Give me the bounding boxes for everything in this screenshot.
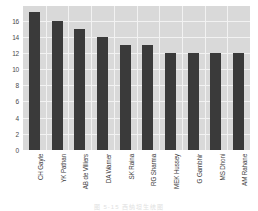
figure-caption: 图 5-15 西纳坦生统图 [0,202,258,211]
x-tick-label: RG Sharma [150,154,157,186]
y-tick-label: 4 [16,114,19,121]
bar [142,45,153,150]
y-tick-label: 0 [16,147,19,154]
y-tick-label: 16 [12,17,19,24]
bar [210,53,221,150]
y-tick-label: 6 [16,98,19,105]
y-axis: 0246810121416 [0,6,23,150]
y-tick-label: 2 [16,130,19,137]
x-tick-label: G Gambhir [196,154,203,183]
plot-area [23,6,250,150]
bar [29,12,40,150]
y-tick-label: 8 [16,82,19,89]
x-tick-label: AB de Villiers [82,154,89,189]
y-tick-label: 14 [12,33,19,40]
x-axis: CH GayleYK PathanAB de VilliersDA Warner… [23,152,250,200]
y-tick-label: 12 [12,49,19,56]
bar [120,45,131,150]
x-tick-label: DA Warner [105,154,112,183]
bar [97,37,108,150]
x-tick-label: MEK Hussey [173,154,180,189]
bar [165,53,176,150]
x-tick-label: CH Gayle [37,154,44,180]
bar [188,53,199,150]
bar [233,53,244,150]
bars-layer [23,6,250,150]
x-tick-label: MS Dhoni [219,154,226,180]
x-tick-label: SK Raina [128,154,135,179]
y-tick-label: 10 [12,66,19,73]
x-tick-label: YK Pathan [60,154,67,183]
bar-chart: 0246810121416 CH GayleYK PathanAB de Vil… [0,0,258,211]
x-tick-label: AM Rahane [241,154,248,186]
bar [52,21,63,150]
bar [74,29,85,150]
